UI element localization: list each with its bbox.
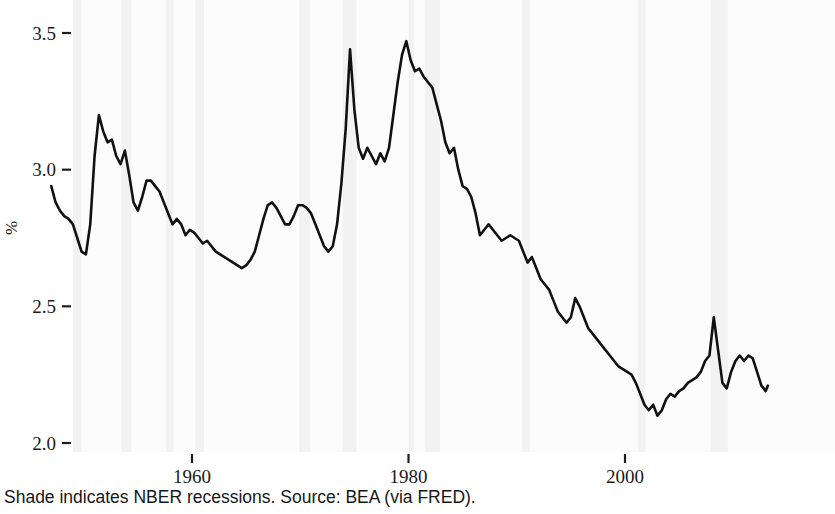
recession-band [711, 0, 728, 452]
x-tick-label: 1960 [173, 466, 211, 487]
recession-band [299, 0, 310, 452]
y-tick-label: 3.5 [32, 23, 56, 44]
recession-band [425, 0, 440, 452]
y-axis-title: % [2, 221, 21, 235]
recession-band [522, 0, 530, 452]
recession-band [195, 0, 204, 452]
figure-caption: Shade indicates NBER recessions. Source:… [4, 487, 476, 507]
x-tick-label: 2000 [606, 466, 644, 487]
y-tick-label: 2.0 [32, 433, 56, 454]
chart-figure: 2.02.53.03.5 196019802000 % Shade indica… [0, 0, 835, 514]
line-chart: 2.02.53.03.5 196019802000 % Shade indica… [0, 0, 835, 514]
x-tick-label: 1980 [390, 466, 428, 487]
recession-band [638, 0, 646, 452]
y-tick-label: 3.0 [32, 159, 56, 180]
y-tick-label: 2.5 [32, 296, 56, 317]
recession-band [122, 0, 132, 452]
recession-band [166, 0, 174, 452]
